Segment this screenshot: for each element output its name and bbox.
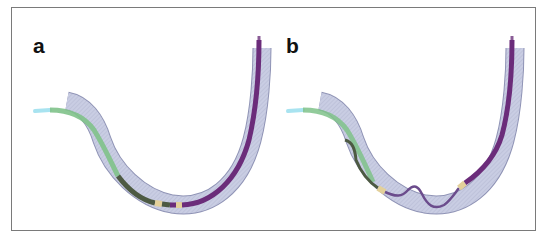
panel-b-diagram (288, 36, 515, 207)
marker-b-1 (378, 188, 385, 192)
marker-a-1 (155, 203, 162, 204)
tip-a (35, 110, 50, 111)
purple-segment-a (170, 40, 259, 205)
catheter-diagram (0, 0, 546, 245)
panel-a-diagram (35, 36, 262, 205)
tip-b (288, 110, 303, 111)
marker-b-2 (459, 183, 465, 188)
